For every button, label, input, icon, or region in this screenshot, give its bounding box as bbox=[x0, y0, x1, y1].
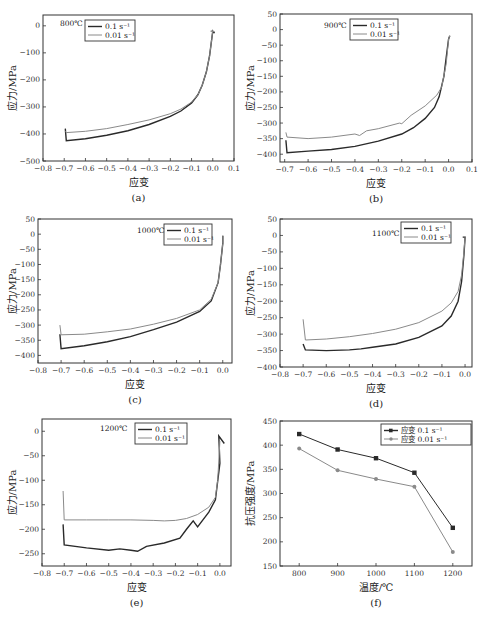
y-tick-label: 0 bbox=[272, 231, 277, 240]
panel-label: (a) bbox=[132, 192, 146, 203]
y-tick-label: −100 bbox=[256, 264, 277, 273]
chart-panel-b: −0.7−0.6−0.5−0.4−0.3−0.2−0.10.00.1−400−3… bbox=[244, 10, 478, 205]
series-line-rate-0-01 bbox=[63, 441, 220, 521]
x-tick-label: −0.2 bbox=[410, 370, 428, 379]
y-tick-label: −200 bbox=[256, 87, 277, 96]
x-tick-label: 800 bbox=[292, 569, 307, 578]
data-point-square bbox=[335, 447, 339, 451]
x-tick-label: −0.5 bbox=[100, 569, 118, 578]
x-tick-label: −0.2 bbox=[161, 164, 179, 173]
y-tick-label: 0 bbox=[30, 230, 35, 239]
x-tick-label: 0.0 bbox=[214, 569, 226, 578]
x-tick-label: 0.0 bbox=[207, 164, 219, 173]
data-point-square bbox=[451, 526, 455, 530]
series-line-rate-0-1 bbox=[63, 436, 224, 551]
temperature-annotation: 1000℃ bbox=[137, 226, 164, 235]
y-tick-label: 450 bbox=[263, 417, 278, 426]
y-axis-title: 应力/MPa bbox=[6, 65, 18, 111]
x-tick-label: −0.1 bbox=[191, 366, 209, 375]
y-axis-title: 应力/MPa bbox=[6, 470, 18, 516]
y-tick-label: −200 bbox=[18, 525, 39, 534]
panel-label: (f) bbox=[370, 597, 382, 608]
series-line-rate-0-1 bbox=[286, 36, 450, 153]
x-tick-label: 1200 bbox=[443, 569, 462, 578]
legend-marker-square bbox=[389, 429, 393, 433]
x-axis-title: 应变 bbox=[366, 382, 386, 394]
y-tick-label: −300 bbox=[256, 119, 277, 128]
x-tick-label: 0.0 bbox=[443, 165, 455, 174]
y-axis-title: 抗压强度/MPa bbox=[244, 461, 256, 527]
y-tick-label: −200 bbox=[19, 75, 40, 84]
data-point-circle bbox=[297, 447, 301, 451]
x-tick-label: −0.6 bbox=[77, 569, 95, 578]
chart-panel-e: −0.8−0.7−0.6−0.5−0.4−0.3−0.2−0.10.0−250−… bbox=[6, 419, 231, 608]
y-tick-label: −250 bbox=[256, 313, 277, 322]
y-tick-label: 350 bbox=[263, 465, 278, 474]
x-tick-label: 1100 bbox=[405, 569, 424, 578]
y-tick-label: −400 bbox=[14, 351, 35, 360]
x-tick-label: −0.7 bbox=[52, 366, 70, 375]
x-axis-title: 温度/℃ bbox=[359, 581, 394, 593]
x-axis-title: 应变 bbox=[125, 378, 145, 390]
x-tick-label: −0.8 bbox=[29, 366, 47, 375]
x-tick-label: 0.0 bbox=[459, 370, 471, 379]
x-tick-label: −0.4 bbox=[346, 165, 364, 174]
legend: 0.1 s⁻¹0.01 s⁻¹ bbox=[401, 222, 451, 243]
temperature-annotation: 800℃ bbox=[60, 19, 83, 28]
data-point-circle bbox=[374, 477, 378, 481]
series-line-rate-0-01 bbox=[299, 449, 453, 552]
x-tick-label: −0.5 bbox=[322, 165, 340, 174]
panel-label: (c) bbox=[128, 394, 142, 405]
x-tick-label: −0.5 bbox=[98, 164, 116, 173]
x-tick-label: −0.1 bbox=[416, 165, 434, 174]
legend: 0.1 s⁻¹0.01 s⁻¹ bbox=[85, 20, 135, 41]
x-tick-label: −0.7 bbox=[55, 569, 73, 578]
y-tick-label: −50 bbox=[19, 245, 35, 254]
x-tick-label: 0.1 bbox=[228, 164, 240, 173]
legend-label: 应变 0.01 s⁻¹ bbox=[401, 434, 447, 444]
y-tick-label: −150 bbox=[18, 500, 39, 509]
y-tick-label: −400 bbox=[256, 150, 277, 159]
x-tick-label: −0.4 bbox=[122, 569, 140, 578]
x-tick-label: −0.8 bbox=[33, 569, 51, 578]
y-tick-label: −350 bbox=[256, 134, 277, 143]
legend-label: 0.01 s⁻¹ bbox=[105, 31, 135, 40]
y-tick-label: −150 bbox=[256, 72, 277, 81]
data-point-square bbox=[297, 432, 301, 436]
x-tick-label: −0.3 bbox=[140, 164, 158, 173]
series-line-rate-0-01 bbox=[303, 237, 465, 340]
y-tick-label: 0 bbox=[35, 21, 40, 30]
x-tick-label: −0.7 bbox=[55, 164, 73, 173]
chart-panel-d: −0.8−0.7−0.6−0.5−0.4−0.3−0.2−0.10.0−400−… bbox=[244, 215, 472, 410]
series-line-rate-0-01 bbox=[286, 36, 450, 139]
y-tick-label: −400 bbox=[19, 129, 40, 138]
data-point-square bbox=[412, 471, 416, 475]
x-tick-label: 0.1 bbox=[466, 165, 478, 174]
series-line-rate-0-1 bbox=[65, 31, 215, 141]
legend-label: 0.01 s⁻¹ bbox=[421, 233, 451, 242]
legend-label: 0.01 s⁻¹ bbox=[155, 434, 185, 443]
data-point-circle bbox=[412, 485, 416, 489]
x-tick-label: −0.6 bbox=[299, 165, 317, 174]
x-tick-label: −0.3 bbox=[144, 569, 162, 578]
y-tick-label: 300 bbox=[263, 489, 278, 498]
y-tick-label: 250 bbox=[263, 513, 278, 522]
panel-label: (b) bbox=[369, 193, 383, 204]
y-tick-label: 0 bbox=[34, 427, 39, 436]
y-tick-label: −300 bbox=[256, 330, 277, 339]
x-tick-label: −0.5 bbox=[98, 366, 116, 375]
legend: 0.1 s⁻¹0.01 s⁻¹ bbox=[350, 19, 400, 40]
y-tick-label: −250 bbox=[18, 549, 39, 558]
x-tick-label: −0.3 bbox=[369, 165, 387, 174]
x-tick-label: −0.4 bbox=[121, 366, 139, 375]
series-line-rate-0-01 bbox=[65, 31, 215, 133]
series-line-rate-0-1 bbox=[303, 237, 465, 351]
y-tick-label: −100 bbox=[256, 56, 277, 65]
temperature-annotation: 900℃ bbox=[324, 21, 347, 30]
y-axis-title: 应力/MPa bbox=[6, 268, 18, 314]
y-tick-label: −50 bbox=[261, 247, 277, 256]
y-tick-label: 0 bbox=[272, 25, 277, 34]
legend-marker-circle bbox=[389, 437, 392, 440]
y-tick-label: −350 bbox=[14, 336, 35, 345]
y-tick-label: 50 bbox=[25, 215, 35, 224]
